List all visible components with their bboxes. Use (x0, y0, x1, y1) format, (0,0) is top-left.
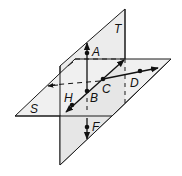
label-point-a: A (91, 45, 100, 59)
label-point-h: H (64, 91, 73, 105)
label-point-c: C (102, 82, 111, 96)
point-f (85, 125, 90, 130)
point-b (85, 89, 90, 94)
point-a (85, 51, 90, 56)
label-point-d: D (130, 76, 139, 90)
intersecting-planes-diagram: T S A B C D F H (0, 0, 182, 176)
point-c (101, 77, 106, 82)
label-point-f: F (92, 120, 100, 134)
label-point-b: B (90, 91, 98, 105)
label-plane-s: S (30, 102, 38, 116)
point-d (138, 69, 143, 74)
